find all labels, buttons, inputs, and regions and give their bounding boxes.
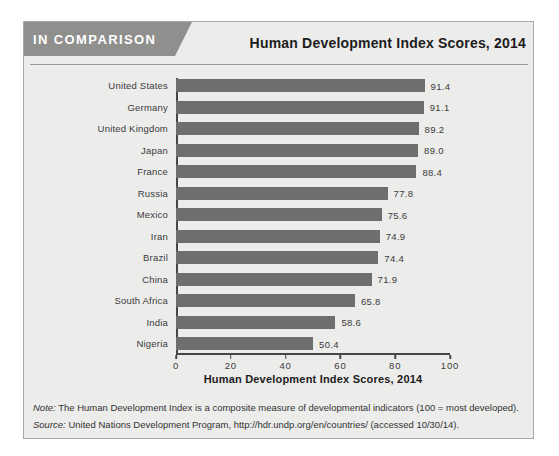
tick-mark xyxy=(175,355,177,359)
value-label: 75.6 xyxy=(388,209,408,220)
bar-row: India58.6 xyxy=(24,312,533,334)
bar-row: Japan89.0 xyxy=(24,140,533,162)
note-text: The Human Development Index is a composi… xyxy=(56,402,519,413)
country-label: Japan xyxy=(24,145,176,156)
bar xyxy=(176,79,425,92)
bar xyxy=(176,273,372,286)
bar xyxy=(176,316,335,329)
bar-row: Nigeria50.4 xyxy=(24,333,533,355)
bar-row: Iran74.9 xyxy=(24,226,533,248)
bar-track: 71.9 xyxy=(176,273,448,286)
tick-label: 20 xyxy=(225,360,237,371)
bar-track: 77.8 xyxy=(176,187,448,200)
bar xyxy=(176,208,382,221)
bar xyxy=(176,187,388,200)
tick-label: 60 xyxy=(334,360,346,371)
country-label: France xyxy=(24,166,176,177)
country-label: Mexico xyxy=(24,209,176,220)
bar-track: 65.8 xyxy=(176,294,448,307)
source-text: United Nations Development Program, http… xyxy=(66,419,459,430)
bar xyxy=(176,122,419,135)
bar-track: 88.4 xyxy=(176,165,448,178)
value-label: 89.0 xyxy=(424,145,444,156)
value-label: 89.2 xyxy=(425,123,445,134)
bar-row: Brazil74.4 xyxy=(24,247,533,269)
bar-row: France88.4 xyxy=(24,161,533,183)
value-label: 74.9 xyxy=(386,231,406,242)
bar xyxy=(176,230,380,243)
x-axis: 020406080100 xyxy=(176,353,450,355)
bar-track: 91.1 xyxy=(176,101,448,114)
bar xyxy=(176,165,416,178)
bar-row: Mexico75.6 xyxy=(24,204,533,226)
country-label: Iran xyxy=(24,231,176,242)
x-axis-label: Human Development Index Scores, 2014 xyxy=(176,373,450,385)
bar-row: United States91.4 xyxy=(24,75,533,97)
source-line: Source: United Nations Development Progr… xyxy=(33,417,519,434)
bar-track: 89.0 xyxy=(176,144,448,157)
tick-mark xyxy=(394,355,396,359)
bar-track: 50.4 xyxy=(176,337,448,350)
bars-container: United States91.4Germany91.1United Kingd… xyxy=(24,75,533,355)
value-label: 65.8 xyxy=(361,295,381,306)
footnotes: Note: The Human Development Index is a c… xyxy=(33,400,519,433)
country-label: Brazil xyxy=(24,252,176,263)
tick-mark xyxy=(230,355,232,359)
tick-mark xyxy=(449,355,451,359)
country-label: Germany xyxy=(24,102,176,113)
value-label: 50.4 xyxy=(319,338,339,349)
value-label: 77.8 xyxy=(394,188,414,199)
header-divider xyxy=(30,64,528,65)
bar xyxy=(176,294,355,307)
value-label: 91.4 xyxy=(431,80,451,91)
country-label: United Kingdom xyxy=(24,123,176,134)
figure-title: Human Development Index Scores, 2014 xyxy=(250,35,526,51)
bar-row: Germany91.1 xyxy=(24,97,533,119)
tick-label: 80 xyxy=(389,360,401,371)
bar-row: Russia77.8 xyxy=(24,183,533,205)
bar xyxy=(176,337,313,350)
country-label: United States xyxy=(24,80,176,91)
country-label: India xyxy=(24,317,176,328)
bar-row: China71.9 xyxy=(24,269,533,291)
tick-mark xyxy=(285,355,287,359)
note-label: Note: xyxy=(33,402,56,413)
bar-track: 91.4 xyxy=(176,79,448,92)
bar-row: South Africa65.8 xyxy=(24,290,533,312)
bar xyxy=(176,101,424,114)
value-label: 71.9 xyxy=(378,274,398,285)
value-label: 88.4 xyxy=(422,166,442,177)
tick-label: 40 xyxy=(280,360,292,371)
bar-track: 89.2 xyxy=(176,122,448,135)
country-label: China xyxy=(24,274,176,285)
value-label: 58.6 xyxy=(341,317,361,328)
in-comparison-banner: IN COMPARISON xyxy=(24,22,192,56)
value-label: 91.1 xyxy=(430,102,450,113)
value-label: 74.4 xyxy=(384,252,404,263)
banner-label: IN COMPARISON xyxy=(24,32,156,47)
country-label: South Africa xyxy=(24,295,176,306)
source-label: Source: xyxy=(33,419,66,430)
page: IN COMPARISON Human Development Index Sc… xyxy=(0,0,559,456)
note-line: Note: The Human Development Index is a c… xyxy=(33,400,519,417)
bar-track: 74.4 xyxy=(176,251,448,264)
country-label: Nigeria xyxy=(24,338,176,349)
bar-track: 74.9 xyxy=(176,230,448,243)
figure-box: IN COMPARISON Human Development Index Sc… xyxy=(23,21,534,439)
bar xyxy=(176,251,378,264)
tick-mark xyxy=(340,355,342,359)
bar xyxy=(176,144,418,157)
tick-label: 0 xyxy=(173,360,179,371)
bar-track: 75.6 xyxy=(176,208,448,221)
country-label: Russia xyxy=(24,188,176,199)
tick-label: 100 xyxy=(441,360,459,371)
bar-track: 58.6 xyxy=(176,316,448,329)
bar-row: United Kingdom89.2 xyxy=(24,118,533,140)
